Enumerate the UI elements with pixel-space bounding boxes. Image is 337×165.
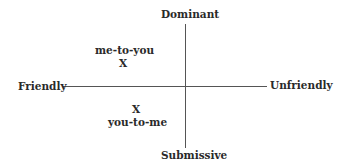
axis-label-submissive: Submissive (161, 149, 227, 161)
horizontal-axis-line (63, 86, 267, 87)
point-you-to-me-marker: X (108, 103, 164, 115)
point-me-to-you-label: me-to-you (95, 44, 151, 56)
axis-label-friendly: Friendly (18, 80, 67, 92)
point-you-to-me-label: you-to-me (108, 116, 164, 128)
axis-label-unfriendly: Unfriendly (270, 79, 333, 91)
point-me-to-you-marker: X (95, 57, 151, 69)
axis-label-dominant: Dominant (161, 8, 219, 20)
